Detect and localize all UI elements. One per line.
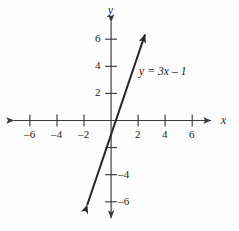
x-tick-label-6: 6 bbox=[189, 129, 195, 140]
y-tick-label-2: 2 bbox=[95, 87, 101, 98]
x-axis bbox=[14, 115, 211, 127]
x-tick-label-2: 2 bbox=[135, 129, 141, 140]
y-tick-label--6: –6 bbox=[118, 196, 129, 207]
y-axis-label: y bbox=[108, 5, 113, 17]
x-tick-label-4: 4 bbox=[162, 129, 168, 140]
equation-annotation: y = 3x – 1 bbox=[139, 66, 187, 78]
graph-figure: x y –6 –4 –2 2 4 6 6 4 2 –4 –6 y = 3x – … bbox=[0, 0, 239, 231]
y-tick-label-6: 6 bbox=[95, 33, 101, 44]
x-axis-label: x bbox=[221, 115, 226, 127]
x-tick-label--6: –6 bbox=[24, 129, 35, 140]
x-tick-label--4: –4 bbox=[51, 129, 62, 140]
x-tick-label--2: –2 bbox=[78, 129, 89, 140]
y-tick-label-4: 4 bbox=[95, 60, 101, 71]
y-tick-label--4: –4 bbox=[118, 169, 129, 180]
